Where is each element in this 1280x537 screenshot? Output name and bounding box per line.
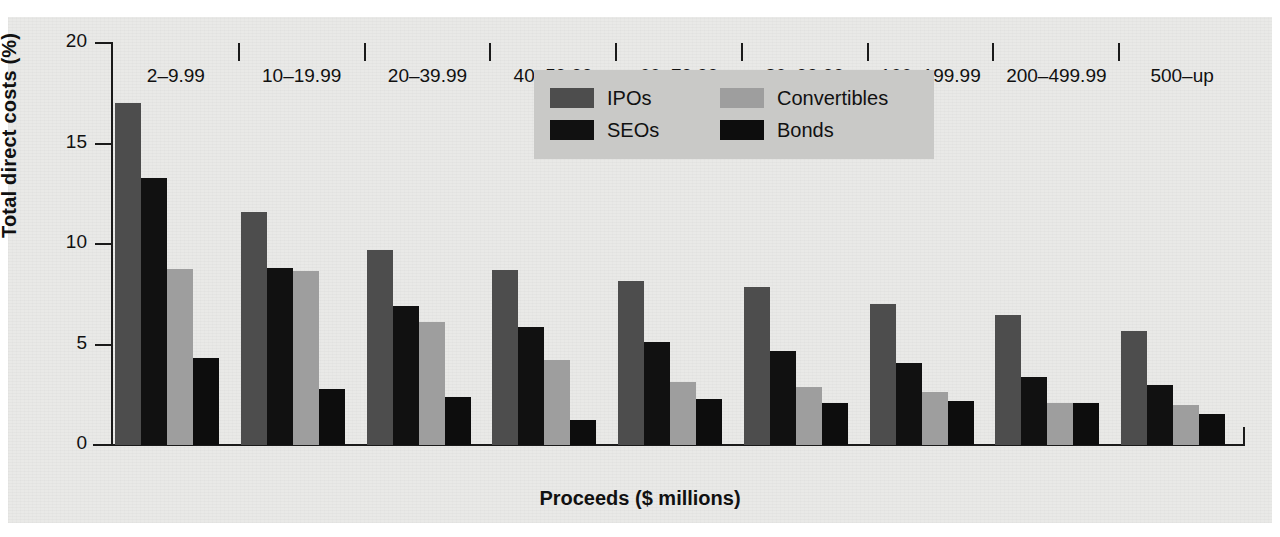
legend-label-seos: SEOs [607,119,659,142]
legend-item-convertibles: Convertibles [720,87,888,110]
legend-item-bonds: Bonds [720,119,834,142]
legend-label-ipos: IPOs [607,87,651,110]
y-tick-label: 15 [66,131,87,153]
chart-legend: IPOs Convertibles SEOs Bonds [534,70,934,159]
x-axis-title: Proceeds ($ millions) [0,487,1280,510]
y-tick: 20 [95,42,113,44]
y-axis-title: Total direct costs (%) [0,33,21,238]
y-tick-label: 10 [66,231,87,253]
legend-swatch-bonds [720,120,764,140]
legend-swatch-seos [550,120,594,140]
bar [1199,414,1225,445]
legend-label-convertibles: Convertibles [777,87,888,110]
legend-label-bonds: Bonds [777,119,834,142]
bar [1121,331,1147,445]
legend-item-ipos: IPOs [550,87,720,110]
legend-swatch-convertibles [720,88,764,108]
y-tick: 15 [95,143,113,145]
legend-row: IPOs Convertibles [550,82,918,114]
y-tick: 5 [95,344,113,346]
figure-bar-chart-direct-costs: Total direct costs (%) 05101520 2–9.9910… [0,0,1280,537]
legend-swatch-ipos [550,88,594,108]
bar [1147,385,1173,445]
y-tick-label: 0 [76,432,87,454]
y-tick: 10 [95,243,113,245]
legend-item-seos: SEOs [550,119,720,142]
y-tick: 0 [95,444,113,446]
bar [1173,405,1199,445]
y-tick-label: 5 [76,332,87,354]
legend-row: SEOs Bonds [550,114,918,146]
y-tick-label: 20 [66,30,87,52]
